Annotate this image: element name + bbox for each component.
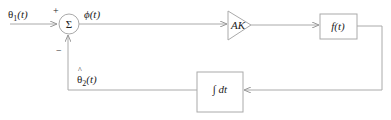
feedback-label: θ2(t) xyxy=(77,73,97,88)
gain-label: AK xyxy=(230,19,246,31)
integrator-label: ∫ dt xyxy=(212,83,228,96)
minus-sign: − xyxy=(56,45,62,56)
phase-locked-loop-diagram: θ1(t) + − Σ ϕ(t) AK f(t) ∫ dt θ2(t) ^ xyxy=(0,0,391,120)
filter-label: f(t) xyxy=(331,20,345,33)
sum-symbol: Σ xyxy=(66,18,72,30)
filter-output-line xyxy=(244,26,382,90)
error-label: ϕ(t) xyxy=(84,8,100,21)
plus-sign: + xyxy=(53,5,59,16)
input-label: θ1(t) xyxy=(8,8,28,23)
feedback-hat: ^ xyxy=(78,66,82,75)
